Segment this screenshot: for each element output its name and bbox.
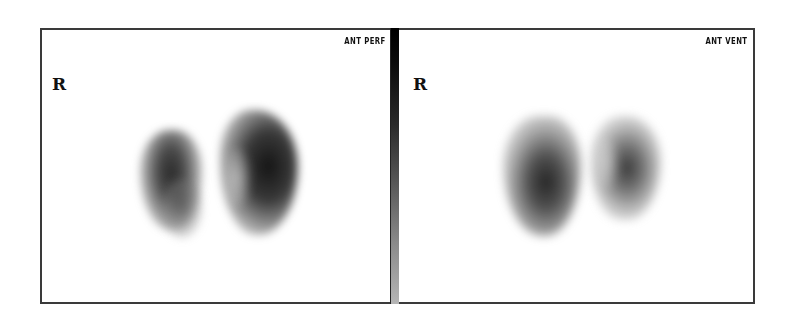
right-lung-perfusion-lower-lobe — [162, 180, 202, 238]
right-side-marker: R — [52, 74, 66, 94]
left-lung-perfusion-hilum — [224, 148, 250, 206]
panel-label-ant-vent: ANT VENT — [705, 36, 747, 46]
right-side-marker: R — [413, 74, 427, 94]
perfusion-panel: R ANT PERF — [40, 28, 392, 304]
ventilation-panel: R ANT VENT — [399, 28, 755, 304]
left-lung-ventilation-hilum — [595, 138, 617, 188]
right-lung-ventilation-image — [503, 116, 581, 236]
panel-label-ant-perf: ANT PERF — [345, 36, 386, 46]
